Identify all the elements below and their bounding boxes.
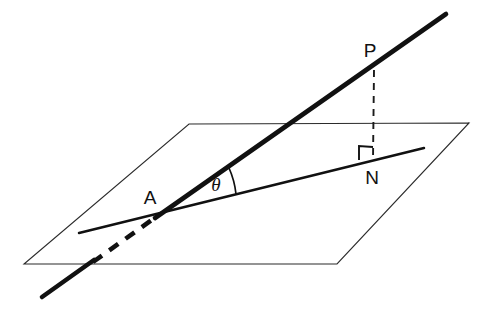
oblique-line-hidden-segment — [93, 217, 156, 262]
right-angle-marker-at-N — [359, 146, 373, 160]
projection-line-AN — [79, 148, 424, 233]
oblique-line-lower-tail — [42, 260, 94, 297]
label-angle-theta: θ — [211, 174, 220, 195]
angle-arc-theta-at-A — [229, 168, 236, 194]
label-point-n: N — [365, 167, 379, 188]
reference-plane-outline — [24, 123, 469, 264]
geometry-canvas: A P N θ — [0, 0, 491, 313]
perpendicular-segment-PN — [373, 70, 374, 160]
geometry-diagram-root: A P N θ — [0, 0, 491, 313]
label-point-p: P — [364, 40, 377, 61]
oblique-line-visible-segment — [155, 14, 446, 218]
label-point-a: A — [144, 187, 157, 208]
